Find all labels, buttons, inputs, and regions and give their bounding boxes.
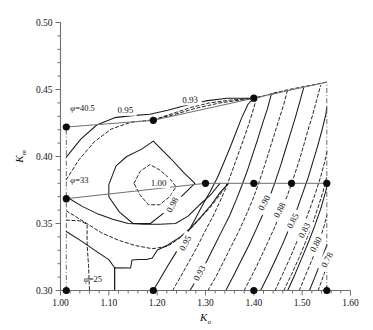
contour-label-text: 0.95 <box>117 105 133 115</box>
phi-value: =40.5 <box>75 103 95 113</box>
data-point-marker <box>202 180 209 187</box>
phi-value: =33 <box>75 175 88 185</box>
phi-annotation-text: φ=33 <box>70 175 88 185</box>
y-axis-title-text: Km <box>13 150 28 163</box>
contour-line <box>275 152 327 291</box>
contour-label: 0.78 <box>317 247 338 272</box>
contour-layer <box>66 82 327 290</box>
contour-line <box>244 85 320 290</box>
y-axis-title-sub: m <box>20 150 28 155</box>
contour-plot-svg: 0.300.350.400.450.501.001.101.201.301.40… <box>0 0 373 330</box>
x-tick-label: 1.00 <box>52 298 69 308</box>
contour-label: 0.95 <box>114 105 137 116</box>
contour-label: 0.93 <box>178 93 202 106</box>
contour-label: 0.93 <box>189 260 210 285</box>
phi-value: =25 <box>89 274 102 284</box>
data-point-marker <box>323 287 330 294</box>
contour-label: 0.98 <box>162 192 183 217</box>
y-tick-label: 0.30 <box>36 286 53 296</box>
phi-annotation: φ=33 <box>70 175 88 185</box>
contour-label-text: 1.00 <box>151 178 167 188</box>
y-axis-title: Km <box>13 150 28 163</box>
y-tick-label: 0.35 <box>36 219 53 229</box>
x-tick-label: 1.20 <box>149 298 166 308</box>
data-point-marker <box>250 180 257 187</box>
contour-line <box>66 183 227 248</box>
phi-annotation: φ=25 <box>84 274 102 284</box>
data-point-marker <box>288 180 295 187</box>
data-point-marker <box>150 117 157 124</box>
contour-label: 0.95 <box>175 230 196 255</box>
phi-annotation-text: φ=25 <box>84 274 102 284</box>
x-tick-label: 1.50 <box>294 298 311 308</box>
data-point-marker <box>63 195 70 202</box>
phi-annotation-text: φ=40.5 <box>70 103 95 113</box>
contour-label: 0.90 <box>254 190 275 215</box>
x-axis-title-text: Ku <box>199 311 211 326</box>
data-point-marker <box>250 287 257 294</box>
contour-label: 0.88 <box>269 197 290 222</box>
x-tick-label: 1.60 <box>342 298 359 308</box>
x-tick-label: 1.10 <box>101 298 118 308</box>
contour-line <box>208 90 288 291</box>
data-point-marker <box>63 123 70 130</box>
phi-annotations-layer: φ=40.5φ=33φ=25 <box>70 103 102 285</box>
y-tick-label: 0.40 <box>36 152 53 162</box>
data-point-marker <box>323 180 330 187</box>
contour-line <box>66 183 220 224</box>
boundary-layer <box>66 82 327 290</box>
data-point-marker <box>250 95 257 102</box>
y-tick-label: 0.45 <box>36 85 53 95</box>
data-point-marker <box>150 287 157 294</box>
x-tick-label: 1.30 <box>197 298 214 308</box>
x-axis-title-sub: u <box>207 318 211 326</box>
contour-label: 0.80 <box>305 232 326 257</box>
contour-label: 1.00 <box>147 177 170 188</box>
contour-label-text: 0.93 <box>182 94 199 105</box>
phi-annotation: φ=40.5 <box>70 103 95 113</box>
boundary-mid-phi-33 <box>66 183 327 198</box>
contour-figure: 0.300.350.400.450.501.001.101.201.301.40… <box>0 0 373 330</box>
y-tick-label: 0.50 <box>36 18 53 28</box>
data-point-marker <box>63 287 70 294</box>
x-axis-title: Ku <box>199 311 211 326</box>
contour-line <box>173 96 264 290</box>
x-tick-label: 1.40 <box>246 298 263 308</box>
